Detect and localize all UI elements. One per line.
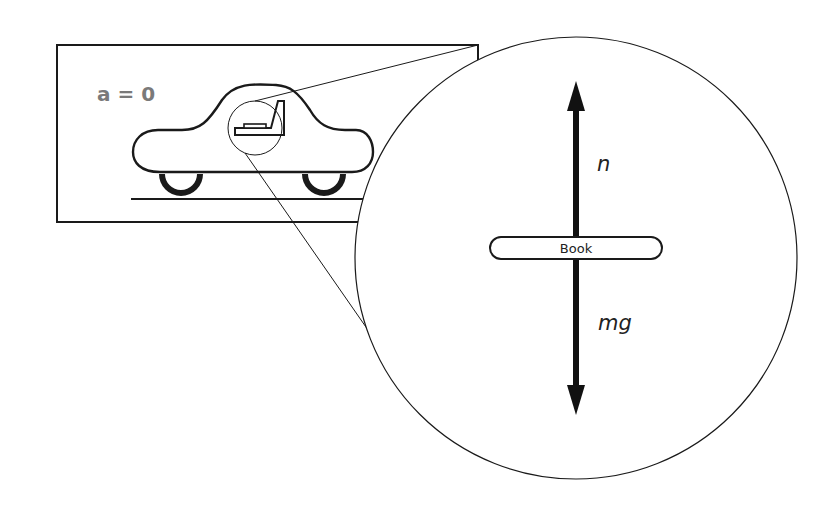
book-label: Book (560, 241, 593, 256)
free-body-diagram: a = 0 n mg Book (0, 0, 830, 513)
weight-force-label: mg (598, 311, 632, 335)
normal-force-label: n (597, 152, 610, 176)
acceleration-label: a = 0 (97, 82, 155, 106)
car-wheels (162, 174, 343, 193)
book-on-seat (244, 124, 266, 128)
